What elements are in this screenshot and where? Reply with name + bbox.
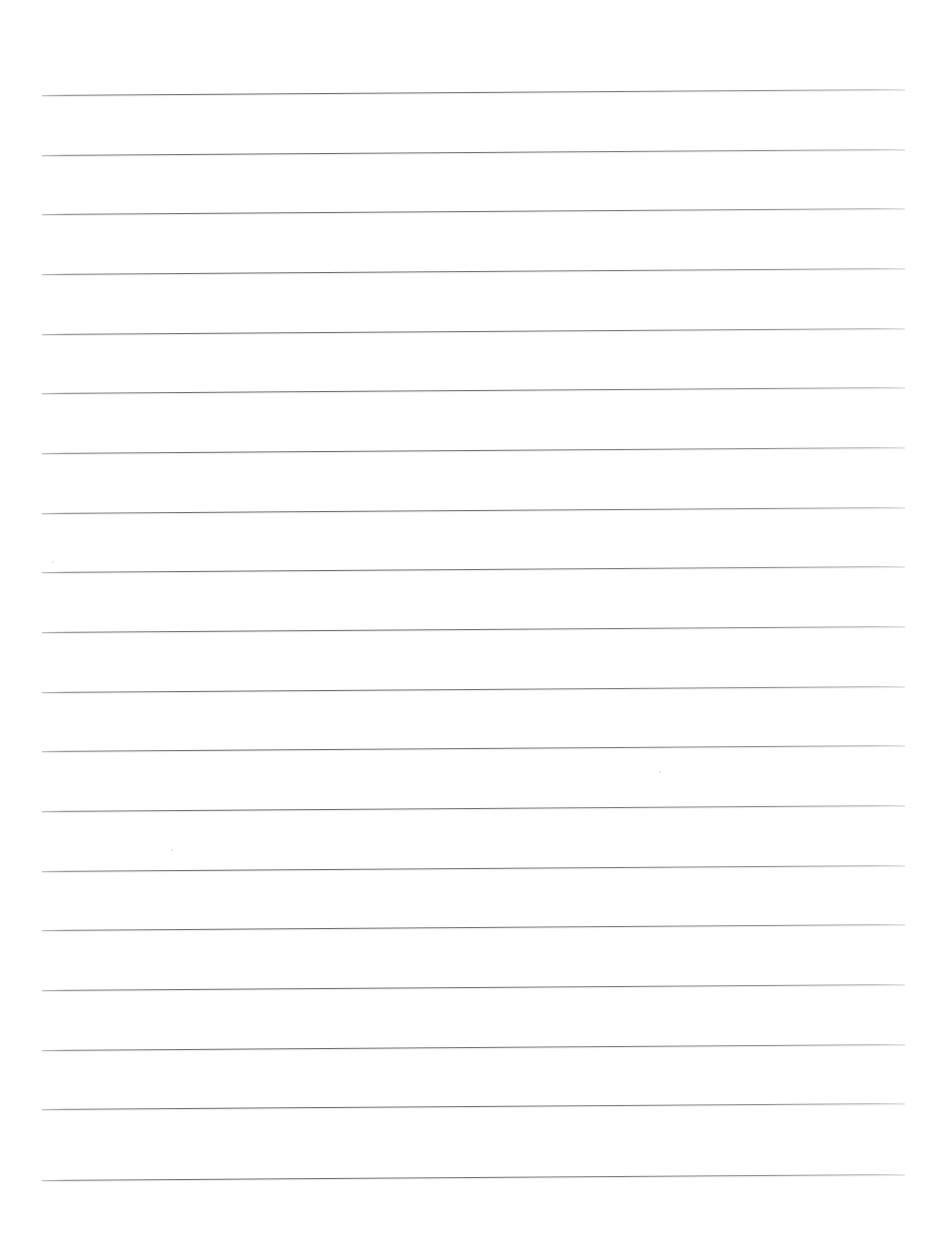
ruled-line xyxy=(42,626,905,633)
scanned-page xyxy=(0,0,944,1248)
ruled-line xyxy=(42,1044,905,1051)
ruled-line xyxy=(42,984,905,991)
ruled-line xyxy=(42,208,905,215)
scan-speck xyxy=(52,561,54,563)
ruled-line xyxy=(42,89,905,96)
ruled-line xyxy=(42,387,905,394)
ruled-line xyxy=(42,805,905,812)
ruled-line xyxy=(42,745,905,752)
ruled-line xyxy=(42,1103,905,1110)
ruled-line xyxy=(42,149,905,156)
ruled-line xyxy=(42,507,905,514)
ruled-line xyxy=(42,268,905,275)
ruled-line xyxy=(42,686,905,693)
ruled-line-layer xyxy=(0,0,944,1248)
ruled-line xyxy=(42,924,905,931)
ruled-line xyxy=(42,566,905,573)
ruled-line xyxy=(42,865,905,872)
ruled-line xyxy=(42,1174,905,1181)
scan-speck xyxy=(171,849,173,851)
ruled-line xyxy=(42,328,905,335)
scan-speck xyxy=(659,771,661,773)
ruled-line xyxy=(42,447,905,454)
